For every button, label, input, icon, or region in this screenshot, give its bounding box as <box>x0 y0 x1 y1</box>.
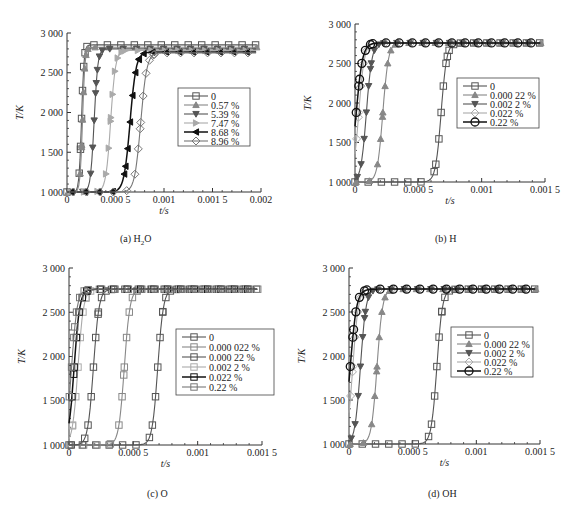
x-axis-title: t/s <box>445 195 455 206</box>
panel-o: 1 0001 5002 0002 5003 00000.000 50.0010.… <box>16 263 277 470</box>
y-tick-label: 2 000 <box>41 107 64 118</box>
panel-oh: 1 0001 5002 0002 5003 00000.000 50.0010.… <box>296 263 555 469</box>
x-tick-label: 0.001 5 <box>247 447 277 458</box>
x-tick-label: 0.001 5 <box>198 194 228 205</box>
series-2-marker <box>357 364 363 370</box>
series-2-marker <box>358 162 364 168</box>
series-2-marker <box>99 48 105 54</box>
series-2-marker <box>363 110 369 116</box>
caption-c: (c) O <box>147 488 168 500</box>
legend-label: 8.96 % <box>211 136 239 147</box>
series-2-marker <box>355 393 361 399</box>
y-tick-label: 1 000 <box>41 187 64 198</box>
series-1-marker <box>379 309 385 315</box>
x-tick-label: 0.000 5 <box>101 194 131 205</box>
y-tick-label: 1 500 <box>323 395 346 406</box>
x-tick-label: 0.001 <box>470 184 493 195</box>
legend: 00.57 %5.39 %7.47 %8.68 %8.96 % <box>178 88 250 147</box>
series-2-marker <box>359 335 365 341</box>
y-axis-title: T/K <box>14 104 25 120</box>
series-1-marker <box>376 334 382 340</box>
series-2-marker <box>87 171 93 177</box>
legend: 00.000 022 %0.000 22 %0.002 2 %0.022 %0.… <box>176 329 274 395</box>
series-2-marker <box>368 61 374 67</box>
series-2-marker <box>361 136 367 142</box>
series-2-marker <box>352 422 358 428</box>
series-2-marker <box>94 67 100 73</box>
y-tick-label: 1 000 <box>43 440 66 451</box>
y-tick-label: 1 000 <box>323 439 346 450</box>
legend-label: 0.22 % <box>484 366 512 377</box>
series-1-marker <box>368 421 374 427</box>
y-tick-label: 2 500 <box>329 58 352 69</box>
series-1-marker <box>374 363 380 369</box>
y-axis-title: T/K <box>302 94 313 110</box>
caption-b: (b) H <box>435 233 456 245</box>
y-tick-label: 2 500 <box>41 67 64 78</box>
series-2-marker <box>92 91 98 97</box>
x-tick-label: 0.001 5 <box>530 184 560 195</box>
series-1-marker <box>377 136 383 142</box>
series-2-marker <box>93 81 99 87</box>
legend-label: 0.22 % <box>490 117 518 128</box>
y-axis-title: T/K <box>296 347 307 363</box>
y-tick-label: 2 000 <box>323 351 346 362</box>
y-tick-label: 1 500 <box>329 137 352 148</box>
panel-h2o: 1 0001 5002 0002 5003 00000.000 50.0010.… <box>14 28 272 217</box>
y-axis-title: T/K <box>16 348 27 364</box>
series-1-marker <box>374 161 380 167</box>
x-axis-title: t/s <box>161 458 171 469</box>
series-1-marker <box>382 294 388 300</box>
y-tick-label: 2 000 <box>329 98 352 109</box>
y-tick-label: 3 000 <box>329 19 352 30</box>
caption-d: (d) OH <box>428 488 457 500</box>
series-1-marker <box>382 83 388 89</box>
y-tick-label: 2 500 <box>43 307 66 318</box>
x-tick-label: 0.001 <box>465 446 488 457</box>
x-tick-label: 0.001 <box>153 194 176 205</box>
x-axis-title: t/s <box>159 205 169 216</box>
series-2-marker <box>90 145 96 151</box>
y-tick-label: 1 500 <box>41 147 64 158</box>
y-tick-label: 3 000 <box>43 263 66 274</box>
y-tick-label: 3 000 <box>323 263 346 274</box>
caption-a: (a) H2O <box>120 233 152 247</box>
y-tick-label: 2 500 <box>323 307 346 318</box>
panel-h: 1 0001 5002 0002 5003 00000.000 50.0010.… <box>302 19 560 207</box>
legend: 00.000 22 %0.002 2 %0.022 %0.22 % <box>457 78 539 128</box>
x-tick-label: 0.001 <box>186 447 209 458</box>
y-tick-label: 1 500 <box>43 395 66 406</box>
series-2-marker <box>361 316 367 322</box>
y-tick-label: 1 000 <box>329 177 352 188</box>
y-tick-label: 2 000 <box>43 351 66 362</box>
series-2-marker <box>367 66 373 72</box>
series-1-marker <box>380 109 386 115</box>
series-2-marker <box>96 54 102 60</box>
series-1-marker <box>372 393 378 399</box>
series-2-marker <box>365 84 371 90</box>
series-1-marker <box>388 47 394 53</box>
x-axis-title: t/s <box>440 457 450 468</box>
series-2-marker <box>365 295 371 301</box>
figure: 1 0001 5002 0002 5003 00000.000 50.0010.… <box>0 0 573 516</box>
x-tick-label: 0.001 5 <box>525 446 555 457</box>
legend-label: 0.22 % <box>209 382 237 393</box>
x-tick-label: 0.002 <box>250 194 273 205</box>
y-tick-label: 3 000 <box>41 28 64 39</box>
series-1-marker <box>385 60 391 66</box>
series-2-marker <box>362 309 368 315</box>
legend: 00.000 22 %0.002 2 %0.022 %0.22 % <box>451 327 533 377</box>
series-2-marker <box>91 118 97 124</box>
